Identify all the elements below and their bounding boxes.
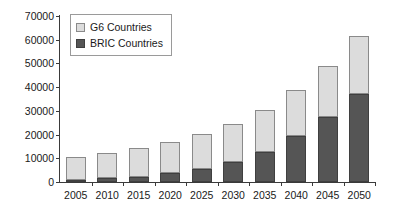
legend-label-g6: G6 Countries: [90, 22, 152, 33]
legend-item-g6: G6 Countries: [76, 19, 163, 35]
legend-swatch-g6-icon: [76, 23, 85, 32]
y-tick-mark: [56, 158, 60, 159]
bar-segment-g6-2030[interactable]: [223, 124, 243, 162]
bar-segment-bric-2025[interactable]: [192, 169, 212, 182]
bar-group-2035[interactable]: [255, 16, 275, 182]
bar-group-2040[interactable]: [286, 16, 306, 182]
legend-item-bric: BRIC Countries: [76, 35, 163, 51]
x-tick-mark: [281, 182, 282, 186]
bar-segment-g6-2005[interactable]: [66, 157, 86, 180]
y-tick-label: 50000: [25, 58, 54, 69]
bar-segment-bric-2045[interactable]: [318, 117, 338, 182]
bar-group-2050[interactable]: [349, 16, 369, 182]
y-tick-mark: [56, 182, 60, 183]
bar-group-2030[interactable]: [223, 16, 243, 182]
bar-segment-g6-2025[interactable]: [192, 134, 212, 169]
x-tick-mark: [123, 182, 124, 186]
y-tick-mark: [56, 135, 60, 136]
bar-segment-bric-2050[interactable]: [349, 94, 369, 182]
x-tick-mark: [249, 182, 250, 186]
bar-segment-g6-2045[interactable]: [318, 66, 338, 118]
y-tick-label: 60000: [25, 34, 54, 45]
bar-segment-g6-2015[interactable]: [129, 148, 149, 177]
x-tick-mark: [92, 182, 93, 186]
bar-segment-bric-2020[interactable]: [160, 173, 180, 182]
chart-legend: G6 Countries BRIC Countries: [70, 14, 172, 56]
y-tick-label: 30000: [25, 106, 54, 117]
legend-swatch-bric-icon: [76, 39, 85, 48]
y-tick-label: 70000: [25, 11, 54, 22]
x-tick-mark: [312, 182, 313, 186]
stacked-bar-chart: 010000200003000040000500006000070000 200…: [0, 0, 394, 210]
x-tick-mark: [375, 182, 376, 186]
legend-label-bric: BRIC Countries: [90, 38, 163, 49]
bar-segment-g6-2050[interactable]: [349, 36, 369, 94]
x-tick-label: 2010: [96, 190, 119, 201]
bar-group-2025[interactable]: [192, 16, 212, 182]
bar-segment-bric-2030[interactable]: [223, 162, 243, 182]
y-tick-label: 10000: [25, 153, 54, 164]
x-tick-mark: [186, 182, 187, 186]
x-tick-mark: [218, 182, 219, 186]
y-tick-mark: [56, 40, 60, 41]
bar-group-2045[interactable]: [318, 16, 338, 182]
bar-segment-bric-2015[interactable]: [129, 177, 149, 182]
x-tick-label: 2020: [159, 190, 182, 201]
x-tick-mark: [155, 182, 156, 186]
x-tick-label: 2045: [316, 190, 339, 201]
x-tick-label: 2035: [253, 190, 276, 201]
x-tick-label: 2030: [222, 190, 245, 201]
bar-segment-bric-2005[interactable]: [66, 180, 86, 182]
x-tick-mark: [344, 182, 345, 186]
bar-segment-g6-2010[interactable]: [97, 153, 117, 179]
bar-segment-g6-2040[interactable]: [286, 90, 306, 136]
y-tick-mark: [56, 63, 60, 64]
x-tick-label: 2025: [190, 190, 213, 201]
x-tick-label: 2015: [127, 190, 150, 201]
x-tick-label: 2005: [64, 190, 87, 201]
y-tick-label: 20000: [25, 129, 54, 140]
bar-segment-g6-2035[interactable]: [255, 110, 275, 152]
x-tick-label: 2040: [285, 190, 308, 201]
bar-segment-bric-2040[interactable]: [286, 136, 306, 182]
bar-segment-bric-2010[interactable]: [97, 178, 117, 182]
x-tick-label: 2050: [348, 190, 371, 201]
y-tick-label: 40000: [25, 82, 54, 93]
y-tick-mark: [56, 111, 60, 112]
bar-segment-bric-2035[interactable]: [255, 152, 275, 182]
y-tick-mark: [56, 87, 60, 88]
bar-segment-g6-2020[interactable]: [160, 142, 180, 174]
y-tick-mark: [56, 16, 60, 17]
y-tick-label: 0: [48, 177, 54, 188]
